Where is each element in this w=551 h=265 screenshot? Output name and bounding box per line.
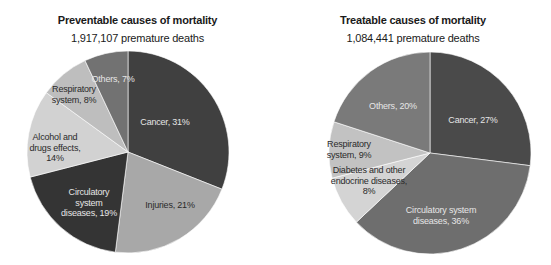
slice-label-others: Others, 7% (91, 74, 134, 85)
slice-label-circulatory: Circulatory system diseases, 19% (61, 187, 117, 219)
slice-label-cancer: Cancer, 27% (448, 115, 497, 126)
slice-label-diabetes: Diabetes and other endocrine diseases, 8… (331, 165, 407, 197)
slice-label-alcohol: Alcohol and drugs effects, 14% (29, 132, 80, 164)
slice-label-respiratory: Respiratory system, 9% (327, 139, 372, 160)
treatable-mortality-chart: Treatable causes of mortality 1,084,441 … (275, 0, 551, 265)
slice-label-others: Others, 20% (369, 101, 417, 112)
slice-label-injuries: Injuries, 21% (145, 200, 194, 211)
preventable-mortality-chart: Preventable causes of mortality 1,917,10… (0, 0, 275, 265)
slice-label-cancer: Cancer, 31% (140, 117, 189, 128)
slice-label-circulatory: Circulatory system diseases, 36% (406, 205, 476, 226)
pie-slice-cancer (430, 52, 531, 166)
slice-label-respiratory: Respiratory system, 8% (52, 84, 97, 105)
